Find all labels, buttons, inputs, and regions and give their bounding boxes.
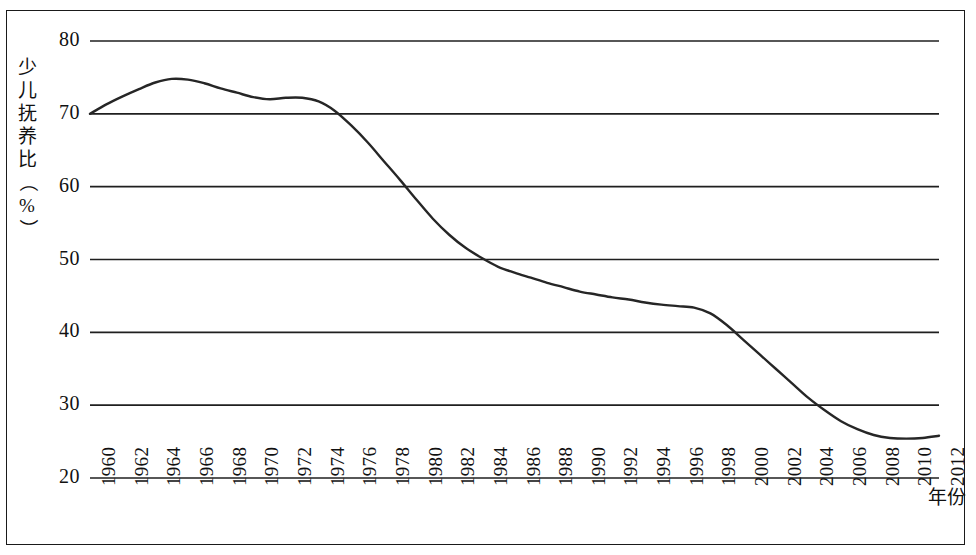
gridlines xyxy=(90,41,939,478)
chart-plot-area xyxy=(0,0,976,555)
data-series-line xyxy=(90,79,939,439)
